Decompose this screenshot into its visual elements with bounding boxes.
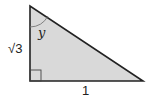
vertical-side-label: √3 xyxy=(8,42,22,55)
horizontal-side-label: 1 xyxy=(82,84,89,97)
triangle-diagram xyxy=(0,0,150,98)
angle-label: y xyxy=(38,26,45,39)
